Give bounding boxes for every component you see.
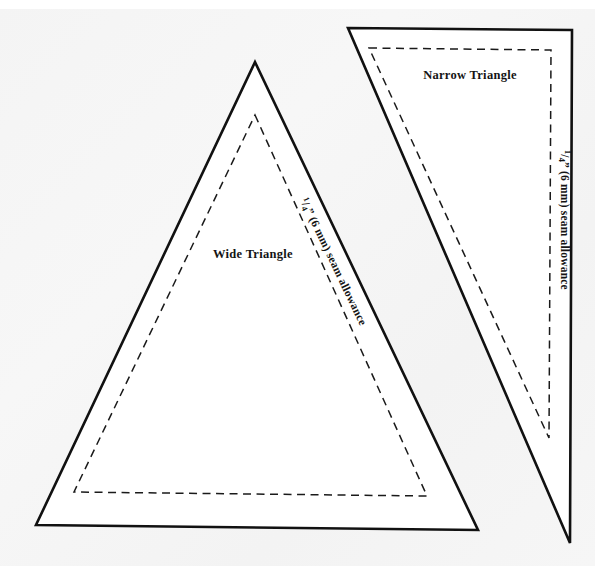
pattern-figure: Wide Triangle 1/4” (6 mm) seam allowance… (0, 0, 595, 566)
wide-triangle-label: Wide Triangle (213, 247, 293, 261)
page-top-margin (0, 0, 595, 9)
narrow-seam-allowance-text: ” (6 mm) seam allowance (558, 162, 571, 290)
narrow-triangle-label: Narrow Triangle (423, 68, 517, 82)
template-sheet-page: Wide Triangle 1/4” (6 mm) seam allowance… (0, 0, 595, 566)
